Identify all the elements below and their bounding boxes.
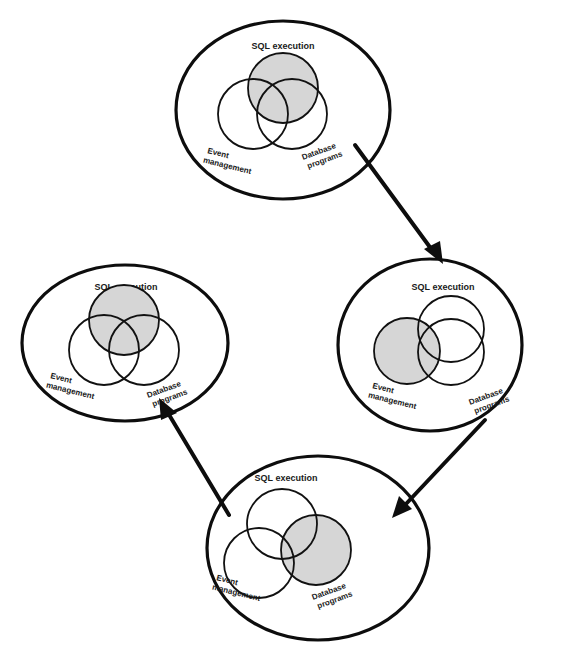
sql-execution-label: SQL execution: [255, 473, 318, 483]
arrow-right-to-bottom: [392, 420, 485, 518]
sql-execution-label: SQL execution: [252, 41, 315, 51]
stage-left: SQL execution Event management Database …: [22, 265, 228, 421]
sql-execution-label: SQL execution: [412, 282, 475, 292]
stage-top: SQL execution Event management Database …: [176, 21, 390, 199]
stage-bottom: SQL execution Event management Database …: [207, 456, 429, 640]
arrow-top-to-right: [355, 145, 443, 264]
stage-right: SQL execution Event management Database …: [338, 259, 522, 431]
cycle-diagram: SQL execution Event management Database …: [0, 0, 567, 649]
arrow-bottom-to-left: [159, 398, 229, 515]
